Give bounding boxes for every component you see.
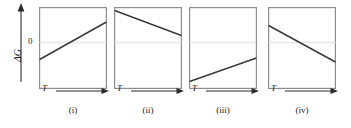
panel-caption-i: (i)	[39, 105, 107, 115]
panel-frame-ii	[115, 8, 182, 89]
panel-plot-iii	[189, 7, 257, 89]
y-axis-zero-tick-label: 0	[28, 36, 33, 46]
x-axis-label-ii: T	[117, 83, 122, 93]
panel-caption-iii: (iii)	[189, 105, 257, 115]
panel-plot-i	[39, 7, 107, 89]
panel-caption-iv: (iv)	[268, 105, 336, 115]
panel-plot-ii	[114, 7, 182, 89]
x-axis-label-iii: T	[192, 83, 197, 93]
panel-frame-iii	[190, 8, 257, 89]
x-axis-arrow-icon-ii	[122, 85, 190, 97]
x-axis-arrow-icon-i	[47, 85, 115, 97]
panel-frame-iv	[269, 8, 336, 89]
y-axis-arrow-icon	[12, 0, 32, 128]
x-axis-arrow-icon-iii	[197, 85, 265, 97]
x-axis-arrow-icon-iv	[276, 85, 344, 97]
panel-caption-ii: (ii)	[114, 105, 182, 115]
panel-plot-iv	[268, 7, 336, 89]
delta-g-vs-temperature-figure: ΔG 0 T (i) T (ii) T (iii)	[0, 0, 351, 128]
x-axis-label-i: T	[42, 83, 47, 93]
panel-frame-i	[40, 8, 107, 89]
x-axis-label-iv: T	[271, 83, 276, 93]
y-axis-label: ΔG	[12, 49, 23, 62]
